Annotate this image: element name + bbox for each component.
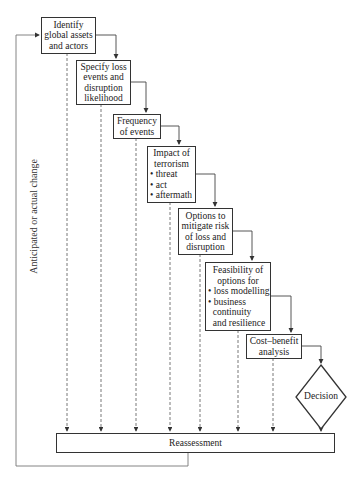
bullet-item: • threat (150, 169, 193, 180)
step-text: global assets (44, 30, 93, 41)
step-text: and actors (44, 41, 93, 52)
bullet-item: and resilience (208, 318, 268, 329)
step-feasibility: Feasibility of options for • loss modell… (205, 262, 271, 331)
step-text: of loss and (181, 232, 230, 243)
step-mitigation-options: Options to mitigate risk of loss and dis… (178, 208, 233, 255)
feedback-label: Anticipated or actual change (28, 137, 39, 297)
step-text: of events (116, 127, 158, 138)
step-text: likelihood (79, 93, 128, 104)
step-frequency: Frequency of events (113, 114, 161, 139)
decision-node: Decision (296, 391, 346, 401)
step-title: Impact of (150, 148, 193, 159)
step-identify-assets: Identify global assets and actors (41, 17, 96, 54)
step-text: mitigate risk (181, 221, 230, 232)
step-text: Cost–benefit (249, 336, 299, 347)
step-text: events and (79, 72, 128, 83)
bullet-item: • business (208, 297, 268, 308)
bullet-item: continuity (208, 307, 268, 318)
step-title: options for (208, 276, 268, 287)
reassessment-label: Reassessment (59, 438, 332, 449)
bullet-item: • aftermath (150, 190, 193, 201)
step-title: Feasibility of (208, 265, 268, 276)
reassessment-box: Reassessment (56, 433, 335, 453)
step-cost-benefit: Cost–benefit analysis (246, 334, 302, 359)
bullet-item: • act (150, 180, 193, 191)
step-text: Frequency (116, 116, 158, 127)
step-text: disruption (79, 83, 128, 94)
step-text: disruption (181, 242, 230, 253)
step-title: terrorism (150, 159, 193, 170)
step-impact-of-terrorism: Impact of terrorism • threat • act • aft… (147, 146, 196, 203)
bullet-item: • loss modelling (208, 286, 268, 297)
step-text: Identify (44, 20, 93, 31)
step-text: analysis (249, 347, 299, 358)
step-text: Specify loss (79, 62, 128, 73)
step-text: Options to (181, 211, 230, 222)
step-specify-loss-events: Specify loss events and disruption likel… (76, 60, 131, 105)
